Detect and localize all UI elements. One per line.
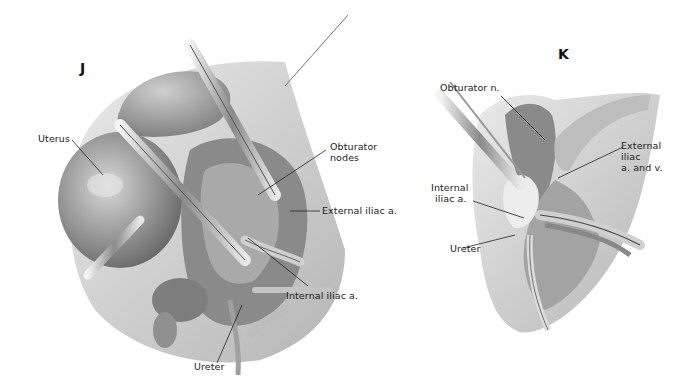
label-ureter-k: Ureter bbox=[450, 243, 481, 254]
label-obturator-nodes-line2: nodes bbox=[330, 152, 359, 163]
label-internal-iliac-line2: iliac a. bbox=[435, 193, 467, 204]
anatomical-figure: J Uterus Obturator nodes External iliac … bbox=[0, 0, 698, 391]
label-obturator-nerve: Obturator n. bbox=[440, 82, 500, 93]
label-external-iliac-artery: External iliac a. bbox=[322, 205, 397, 216]
label-external-iliac-line1: External bbox=[621, 140, 661, 151]
label-uterus: Uterus bbox=[38, 133, 70, 144]
panel-k-art bbox=[440, 82, 660, 333]
label-obturator-nodes-line1: Obturator bbox=[330, 141, 377, 152]
label-external-iliac-line3: a. and v. bbox=[621, 162, 663, 173]
illustration-art bbox=[0, 0, 698, 391]
label-internal-iliac-line1: Internal bbox=[431, 182, 468, 193]
label-ureter-j: Ureter bbox=[194, 361, 225, 372]
label-external-iliac-line2: iliac bbox=[621, 151, 640, 162]
panel-letter-k: K bbox=[558, 46, 569, 62]
panel-letter-j: J bbox=[80, 60, 85, 76]
panel-j-art bbox=[58, 15, 348, 375]
label-internal-iliac-artery: Internal iliac a. bbox=[286, 290, 358, 301]
